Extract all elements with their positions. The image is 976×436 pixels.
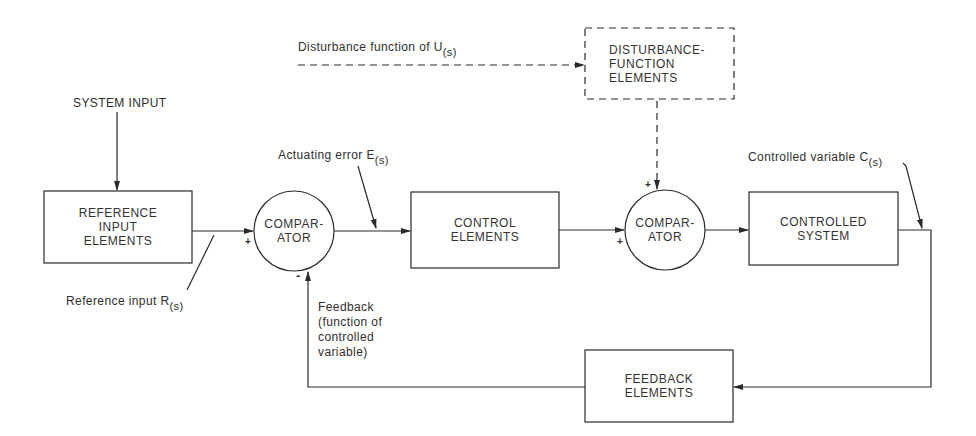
- disturbance-function-text: Disturbance function of U: [298, 40, 443, 54]
- block-text: ELEMENTS: [625, 386, 694, 400]
- block-text: ELEMENTS: [609, 71, 705, 85]
- disturbance-function-subscript: (s): [443, 46, 457, 58]
- control-elements-label: CONTROL ELEMENTS: [411, 192, 559, 268]
- block-text: ELEMENTS: [451, 230, 520, 244]
- disturbance-function-label: Disturbance function of U(s): [298, 40, 457, 54]
- block-text: REFERENCE: [79, 206, 158, 220]
- comparator-2-label: COMPAR- ATOR: [625, 190, 705, 270]
- actuating-error-subscript: (s): [375, 154, 389, 166]
- block-text: ATOR: [264, 231, 323, 245]
- block-text: INPUT: [79, 220, 158, 234]
- system-input-label: SYSTEM INPUT: [73, 96, 166, 110]
- controlled-variable-pointer: [903, 163, 922, 228]
- block-text: COMPAR-: [264, 217, 323, 231]
- block-text: SYSTEM: [780, 229, 867, 243]
- controlled-system-label: CONTROLLED SYSTEM: [749, 192, 898, 265]
- block-text: CONTROLLED: [780, 215, 867, 229]
- actuating-error-text: Actuating error E: [278, 148, 375, 162]
- actuating-error-label: Actuating error E(s): [278, 148, 389, 162]
- feedback-elements-label: FEEDBACK ELEMENTS: [585, 350, 733, 422]
- block-text: FUNCTION: [609, 57, 705, 71]
- reference-input-subscript: (s): [170, 300, 184, 312]
- comparator-1-label: COMPAR- ATOR: [254, 191, 334, 271]
- block-text: DISTURBANCE-: [609, 43, 705, 57]
- comparator-2-plus-sign-left: +: [617, 236, 623, 247]
- reference-input-block-label: REFERENCE INPUT ELEMENTS: [44, 191, 192, 263]
- actuating-error-pointer: [358, 166, 376, 228]
- disturbance-elements-label: DISTURBANCE- FUNCTION ELEMENTS: [585, 28, 734, 99]
- comparator-1-plus-sign: +: [245, 236, 251, 247]
- controlled-variable-subscript: (s): [868, 156, 882, 168]
- controlled-variable-label: Controlled variable C(s): [748, 150, 883, 164]
- feedback-note-line: variable): [318, 345, 382, 360]
- block-text: ATOR: [635, 230, 694, 244]
- feedback-note: Feedback (function of controlled variabl…: [318, 300, 382, 360]
- controlled-variable-text: Controlled variable C: [748, 150, 868, 164]
- comparator-1-minus-sign: -: [296, 268, 300, 283]
- reference-input-text: Reference input R: [66, 294, 170, 308]
- reference-input-label: Reference input R(s): [66, 294, 184, 308]
- block-text: COMPAR-: [635, 216, 694, 230]
- block-text: CONTROL: [451, 216, 520, 230]
- feedback-note-line: (function of: [318, 315, 382, 330]
- comparator-2-plus-sign-top: +: [645, 179, 651, 190]
- feedback-note-line: Feedback: [318, 300, 382, 315]
- block-text: FEEDBACK: [625, 372, 694, 386]
- feedback-note-line: controlled: [318, 330, 382, 345]
- block-text: ELEMENTS: [79, 234, 158, 248]
